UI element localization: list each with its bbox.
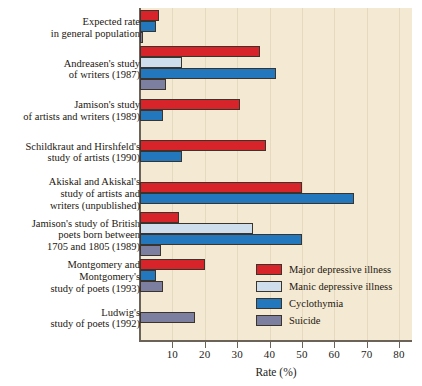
legend-label-manic: Manic depressive illness [289,281,392,292]
bar-major-6 [140,259,205,270]
bar-suicide-6 [140,281,163,292]
category-label-5: Jamison's study of British poets born be… [6,218,140,253]
bar-manic-1 [140,57,182,68]
bar-major-0 [140,10,159,21]
chart-legend: Major depressive illnessManic depressive… [256,261,392,329]
bar-major-3 [140,140,266,151]
x-axis-line [139,340,412,342]
x-tick-label-60: 60 [319,348,349,360]
category-label-6: Montgomery and Montgomery's study of poe… [6,259,140,294]
legend-item-manic[interactable]: Manic depressive illness [256,278,392,295]
legend-swatch-major [256,264,282,275]
gridline-30 [237,8,238,340]
bar-manic-5 [140,223,253,234]
bar-cyclo-4 [140,193,354,204]
x-tick-label-40: 40 [255,348,285,360]
gridline-20 [205,8,206,340]
legend-swatch-cyclo [256,298,282,309]
legend-item-major[interactable]: Major depressive illness [256,261,392,278]
legend-label-cyclo: Cyclothymia [289,298,343,309]
bar-cyclo-6 [140,270,156,281]
legend-label-major: Major depressive illness [289,264,391,275]
bar-suicide-7 [140,312,195,323]
bar-major-1 [140,46,260,57]
category-label-3: Schildkraut and Hirshfeld's study of art… [6,141,140,164]
category-label-2: Jamison's study of artists and writers (… [6,99,140,122]
legend-item-cyclo[interactable]: Cyclothymia [256,295,392,312]
category-label-4: Akiskal and Akiskal's study of artists a… [6,176,140,211]
bar-cyclo-1 [140,68,276,79]
x-tick-label-50: 50 [287,348,317,360]
category-label-7: Ludwig's study of poets (1992) [6,307,140,330]
x-tick-label-20: 20 [190,348,220,360]
bar-cyclo-0 [140,21,156,32]
gridline-80 [399,8,400,340]
bar-cyclo-5 [140,234,302,245]
legend-label-suicide: Suicide [289,315,321,326]
bar-chart: Expected rate in general populationAndre… [0,0,422,386]
category-label-1: Andreasen's study of writers (1987) [6,58,140,81]
bar-suicide-1 [140,79,166,90]
x-tick-label-30: 30 [222,348,252,360]
category-label-0: Expected rate in general population [6,16,140,39]
legend-item-suicide[interactable]: Suicide [256,312,392,329]
bar-cyclo-3 [140,151,182,162]
bar-major-4 [140,182,302,193]
bar-major-5 [140,212,179,223]
x-tick-label-10: 10 [157,348,187,360]
x-axis-title: Rate (%) [140,366,412,378]
bar-suicide-5 [140,245,161,256]
x-tick-label-80: 80 [384,348,414,360]
bar-major-2 [140,99,240,110]
legend-swatch-manic [256,281,282,292]
bar-suicide-0 [140,32,143,43]
legend-swatch-suicide [256,315,282,326]
bar-cyclo-2 [140,110,163,121]
x-tick-label-70: 70 [352,348,382,360]
